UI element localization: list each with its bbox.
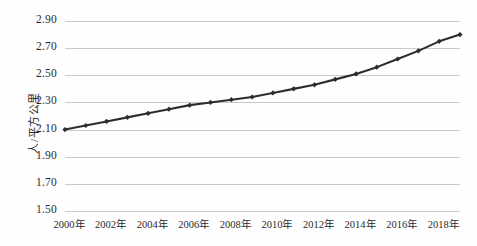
x-tick-label: 2004年 xyxy=(137,216,168,231)
gridline xyxy=(65,211,460,212)
data-point-marker xyxy=(62,127,67,132)
x-tick-label: 2012年 xyxy=(303,216,334,231)
data-point-marker xyxy=(270,90,275,95)
plot-area xyxy=(65,21,460,211)
y-tick-label: 1.70 xyxy=(0,176,57,188)
series-markers-group xyxy=(62,32,462,132)
data-point-marker xyxy=(125,115,130,120)
data-point-marker xyxy=(291,86,296,91)
y-tick-label: 2.30 xyxy=(0,94,57,106)
data-point-marker xyxy=(457,32,462,37)
x-tick-label: 2018年 xyxy=(428,216,459,231)
y-tick-label: 1.90 xyxy=(0,149,57,161)
data-point-marker xyxy=(83,123,88,128)
x-tick-labels: 2000年2002年2004年2006年2008年2010年2012年2014年… xyxy=(65,214,460,238)
x-tick-label: 2002年 xyxy=(95,216,126,231)
series-line-path xyxy=(65,35,460,130)
x-tick-label: 2010年 xyxy=(261,216,292,231)
data-point-marker xyxy=(229,97,234,102)
y-tick-label: 2.70 xyxy=(0,40,57,52)
data-point-marker xyxy=(146,111,151,116)
x-tick-label: 2016年 xyxy=(386,216,417,231)
y-tick-label: 2.10 xyxy=(0,122,57,134)
y-tick-label: 2.90 xyxy=(0,13,57,25)
series-line-chart xyxy=(65,21,460,211)
x-tick-label: 2006年 xyxy=(178,216,209,231)
data-point-marker xyxy=(333,77,338,82)
x-tick-label: 2000年 xyxy=(54,216,85,231)
x-tick-label: 2008年 xyxy=(220,216,251,231)
data-point-marker xyxy=(353,71,358,76)
y-tick-label: 1.50 xyxy=(0,203,57,215)
data-point-marker xyxy=(312,82,317,87)
data-point-marker xyxy=(166,107,171,112)
data-point-marker xyxy=(250,94,255,99)
x-tick-label: 2014年 xyxy=(345,216,376,231)
y-tick-label: 2.50 xyxy=(0,67,57,79)
data-point-marker xyxy=(104,119,109,124)
data-point-marker xyxy=(208,100,213,105)
data-point-marker xyxy=(187,103,192,108)
chart-container: 人/平方公里 2.902.702.502.302.101.901.701.50 … xyxy=(0,0,477,246)
